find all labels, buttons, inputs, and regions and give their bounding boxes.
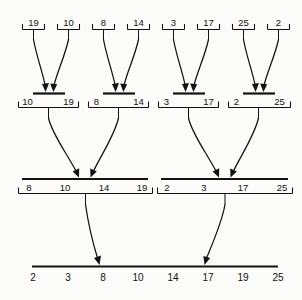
merge-arrows-pairs-to-quads xyxy=(49,118,259,178)
sorted-value-2: 8 xyxy=(100,272,106,283)
leaf-group-7: 2 xyxy=(268,17,290,40)
sorted-value-0: 2 xyxy=(30,272,36,283)
quad-group-0: 8 10 14 19 xyxy=(19,179,153,205)
pair-value-0-0: 10 xyxy=(22,96,33,107)
sorted-value-6: 19 xyxy=(237,272,249,283)
leaf-group-4: 3 xyxy=(163,17,185,40)
merge-sort-canvas: 19 10 8 14 3 xyxy=(0,0,302,300)
merge-arrows-leaves-to-pairs xyxy=(34,40,279,93)
merge-arrow-p2q-0b xyxy=(90,118,118,178)
merge-arrow-p2q-1a xyxy=(189,118,220,178)
merge-arrow-p2q-0a xyxy=(49,118,80,178)
merge-arrow-q2s-1 xyxy=(203,205,225,266)
quad-value-0-2: 14 xyxy=(99,182,110,193)
quad-value-1-3: 25 xyxy=(277,182,288,193)
sorted-value-1: 3 xyxy=(65,272,71,283)
pair-value-0-1: 19 xyxy=(63,96,74,107)
pair-group-2: 3 17 xyxy=(159,94,219,119)
leaf-value-4: 3 xyxy=(171,17,176,28)
merge-arrow-l2p-0a xyxy=(34,40,50,93)
pair-value-1-0: 8 xyxy=(94,96,99,107)
quad-value-0-1: 10 xyxy=(60,182,71,193)
quad-value-0-3: 19 xyxy=(137,182,148,193)
leaf-group-1: 10 xyxy=(58,17,80,40)
pair-value-1-1: 14 xyxy=(133,96,144,107)
pair-group-0: 10 19 xyxy=(19,94,79,119)
pair-value-2-0: 3 xyxy=(164,96,169,107)
sorted-value-5: 17 xyxy=(202,272,214,283)
leaf-value-1: 10 xyxy=(63,17,74,28)
leaf-value-2: 8 xyxy=(101,17,106,28)
level-sorted: 2 3 8 10 14 17 19 25 xyxy=(30,267,284,283)
leaf-value-7: 2 xyxy=(276,17,281,28)
merge-arrow-p2q-1b xyxy=(230,118,258,178)
merge-arrow-l2p-2b xyxy=(190,40,208,93)
merge-arrow-l2p-1a xyxy=(104,40,120,93)
merge-arrow-l2p-0b xyxy=(50,40,68,93)
quad-value-0-0: 8 xyxy=(26,182,31,193)
sorted-value-7: 25 xyxy=(272,272,284,283)
level-quads: 8 10 14 19 2 3 17 25 xyxy=(19,179,293,205)
leaf-value-0: 19 xyxy=(28,17,39,28)
leaf-group-5: 17 xyxy=(198,17,220,40)
merge-arrow-l2p-1b xyxy=(120,40,138,93)
merge-arrow-l2p-2a xyxy=(174,40,190,93)
merge-arrow-l2p-3a xyxy=(244,40,260,93)
leaf-group-6: 25 xyxy=(233,17,255,40)
pair-value-3-1: 25 xyxy=(274,96,285,107)
leaf-value-3: 14 xyxy=(133,17,144,28)
level-leaves: 19 10 8 14 3 xyxy=(23,17,290,40)
quad-value-1-1: 3 xyxy=(201,182,206,193)
pair-group-3: 2 25 xyxy=(229,94,291,119)
level-pairs: 10 19 8 14 3 17 2 xyxy=(19,94,291,119)
leaf-group-0: 19 xyxy=(23,17,45,40)
pair-value-3-0: 2 xyxy=(234,96,239,107)
merge-sort-diagram: 19 10 8 14 3 xyxy=(0,0,302,300)
leaf-value-5: 17 xyxy=(203,17,214,28)
quad-group-1: 2 3 17 25 xyxy=(158,179,293,205)
pair-group-1: 8 14 xyxy=(89,94,149,119)
sorted-value-4: 14 xyxy=(167,272,179,283)
leaf-group-3: 14 xyxy=(128,17,150,40)
pair-value-2-1: 17 xyxy=(203,96,214,107)
quad-value-1-0: 2 xyxy=(164,182,169,193)
merge-arrows-quads-to-sorted xyxy=(86,205,226,266)
sorted-value-3: 10 xyxy=(132,272,144,283)
leaf-value-6: 25 xyxy=(238,17,249,28)
quad-value-1-2: 17 xyxy=(238,182,249,193)
leaf-group-2: 8 xyxy=(93,17,115,40)
merge-arrow-q2s-0 xyxy=(86,205,102,266)
merge-arrow-l2p-3b xyxy=(260,40,278,93)
